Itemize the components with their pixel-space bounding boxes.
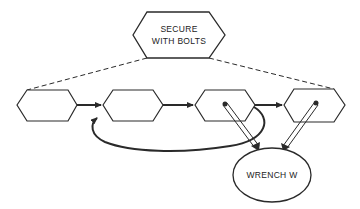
dashed-link-right xyxy=(209,58,334,89)
diagram-canvas: SECURE WITH BOLTS WRENCH W xyxy=(0,0,360,209)
step-node-4[interactable] xyxy=(284,89,345,122)
resource-label: WRENCH W xyxy=(246,170,297,180)
goal-label-line2: WITH BOLTS xyxy=(152,36,206,46)
goal-node[interactable]: SECURE WITH BOLTS xyxy=(133,12,225,58)
step-node-1[interactable] xyxy=(17,90,77,121)
goal-label-line1: SECURE xyxy=(160,24,197,34)
step-node-2[interactable] xyxy=(103,90,163,121)
dashed-link-left xyxy=(27,58,147,90)
resource-node-wrench[interactable]: WRENCH W xyxy=(233,148,311,202)
